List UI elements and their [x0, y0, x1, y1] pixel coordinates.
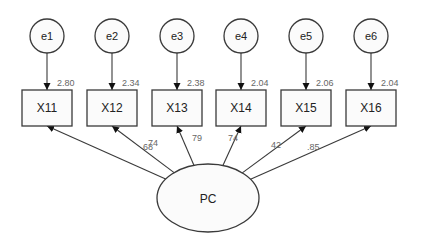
variance-label: 2.80 [57, 78, 75, 88]
variance-label: 2.38 [187, 78, 205, 88]
error-label: e3 [171, 30, 183, 42]
observed-label: X16 [360, 101, 382, 115]
observed-label: X12 [101, 101, 123, 115]
observed-label: X15 [295, 101, 317, 115]
observed-label: X14 [230, 101, 252, 115]
variance-label: 2.04 [381, 78, 399, 88]
latent-label: PC [200, 192, 217, 206]
observed-label: X13 [166, 101, 188, 115]
loading-path-arrow [251, 126, 371, 179]
loading-path-arrow [177, 126, 194, 165]
variance-label: 2.34 [122, 78, 140, 88]
loading-label: 42 [271, 140, 281, 150]
sem-path-diagram: e1X112.8068e2X122.3474e3X132.3879e4X142.… [0, 0, 423, 246]
error-label: e5 [300, 30, 312, 42]
loading-label: .85 [307, 142, 320, 152]
error-label: e1 [41, 30, 53, 42]
loading-label: 74 [228, 133, 238, 143]
error-label: e2 [106, 30, 118, 42]
loading-label: 79 [192, 133, 202, 143]
variance-label: 2.06 [316, 78, 334, 88]
loading-path-arrow [223, 126, 241, 165]
loading-label: 74 [148, 138, 158, 148]
observed-label: X11 [37, 101, 58, 115]
error-label: e4 [235, 30, 247, 42]
variance-label: 2.04 [251, 78, 269, 88]
error-label: e6 [365, 30, 377, 42]
